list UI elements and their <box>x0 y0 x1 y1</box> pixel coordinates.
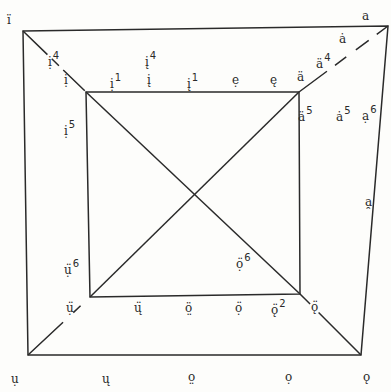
vowel-label-diag-tl: ị <box>64 74 68 86</box>
vowel-symbol: ę <box>270 73 277 87</box>
vowel-superscript: 5 <box>344 105 350 116</box>
vowel-symbol: a <box>362 9 369 23</box>
vowel-label-outer-br: ǫ <box>363 371 370 383</box>
vowel-label-bot-o2: ọ̈ <box>235 302 242 314</box>
vowel-label-diag-tr: ä <box>297 71 304 83</box>
vowel-symbol: ọ̈ <box>235 301 242 315</box>
vowel-label-bot-o1: ö̤ <box>185 302 192 314</box>
vowel-superscript: 5 <box>69 119 75 130</box>
vowel-label-diag-tl-4: ị4 <box>48 52 59 68</box>
vowel-label-outer-right-a: a̯ <box>365 196 372 208</box>
vowel-symbol: ä <box>316 57 323 71</box>
vowel-label-top-e1: ẹ <box>232 74 239 86</box>
vowel-label-outer-bot-o2: ọ <box>285 371 292 383</box>
vowel-label-left-5: ị5 <box>64 121 75 137</box>
vowel-symbol: ạ <box>362 109 369 123</box>
vowel-symbol: ị <box>64 73 68 87</box>
vowel-symbol: ų̈ <box>134 301 142 315</box>
vowel-superscript: 1 <box>115 72 121 83</box>
vowel-superscript: 1 <box>192 72 198 83</box>
vowel-symbol: ị <box>64 124 68 138</box>
vowel-label-top-4: į4 <box>145 52 156 68</box>
vowel-symbol: a̯ <box>365 195 372 209</box>
vowel-superscript: 2 <box>279 298 285 309</box>
vowel-symbol: o̤ <box>188 370 195 384</box>
vowel-symbol: ǫ̈ <box>311 300 318 314</box>
vowel-label-bot-u: ų̈ <box>134 302 142 314</box>
vowel-symbol: ų <box>102 372 110 386</box>
vowel-label-inner-br-6: ọ̈6 <box>236 254 251 270</box>
vowel-label-top-e2: ę <box>270 74 277 86</box>
outer-square <box>23 26 388 355</box>
vowel-label-diag-bl: ụ̈ <box>66 302 74 314</box>
vowel-label-top-i: į <box>147 74 151 86</box>
vowel-symbol: ụ̈ <box>66 301 74 315</box>
vowel-label-inner-right-5: ä5 <box>298 107 313 123</box>
vowel-symbol: ä <box>298 110 305 124</box>
vowel-superscript: 6 <box>370 104 376 115</box>
vowel-symbol: ȧ <box>339 32 346 46</box>
vowel-symbol: ö̤ <box>185 301 192 315</box>
vowel-superscript: 4 <box>324 52 330 63</box>
vowel-superscript: 4 <box>53 50 59 61</box>
vowel-superscript: 6 <box>73 258 79 269</box>
vowel-symbol: ä <box>297 70 304 84</box>
vowel-symbol: į <box>145 55 149 69</box>
vowel-symbol: ï <box>7 13 11 27</box>
vowel-label-outer-tr-a-dot: ȧ <box>339 33 346 45</box>
corner-connector-br <box>300 294 361 355</box>
vowel-label-outer-bot-o1: o̤ <box>188 371 195 383</box>
vowel-symbol: ọ <box>285 370 292 384</box>
vowel-symbol: ẹ <box>232 73 239 87</box>
vowel-label-diag-tr-4: ä4 <box>316 54 331 70</box>
vowel-symbol: ụ̈ <box>64 263 72 277</box>
vowel-symbol: į <box>147 73 151 87</box>
vowel-symbol: į <box>187 77 191 91</box>
vowel-symbol: ị <box>110 77 114 91</box>
vowel-chart-diagram: ïị4ịị1į4įį1ẹęää4ȧaị5ä5ȧ5ạ6a̯ụ̈6ọ̈6ụ̈ų̈ö̤… <box>0 0 391 392</box>
vowel-symbol: ọ̈ <box>236 257 243 271</box>
vowel-label-top-1b: į1 <box>187 74 198 90</box>
vowel-symbol: ǫ <box>363 370 370 384</box>
vowel-symbol: ǫ̈ <box>271 303 278 317</box>
vowel-symbol: ụ <box>11 372 19 386</box>
inner-diagonal-tr-bl <box>90 92 299 297</box>
vowel-label-diag-br: ǫ̈ <box>311 301 318 313</box>
vowel-label-outer-tl: ï <box>7 14 11 26</box>
vowel-symbol: ị <box>48 55 52 69</box>
vowel-label-outer-right-6: ạ6 <box>362 106 377 122</box>
vowel-superscript: 4 <box>150 50 156 61</box>
vowel-label-bot-o2-2: ǫ̈2 <box>271 300 286 316</box>
vowel-symbol: ȧ <box>336 110 343 124</box>
vowel-label-top-1a: ị1 <box>110 74 121 90</box>
vowel-label-outer-bot-u: ų <box>102 373 110 385</box>
vowel-label-outer-bl: ụ <box>11 373 19 385</box>
corner-connector-bl <box>28 297 90 355</box>
vowel-label-left-6: ụ̈6 <box>64 260 79 276</box>
vowel-superscript: 6 <box>244 252 250 263</box>
vowel-label-outer-tr: a <box>362 10 369 22</box>
vowel-label-mid-right-5: ȧ5 <box>336 107 351 123</box>
vowel-superscript: 5 <box>306 105 312 116</box>
